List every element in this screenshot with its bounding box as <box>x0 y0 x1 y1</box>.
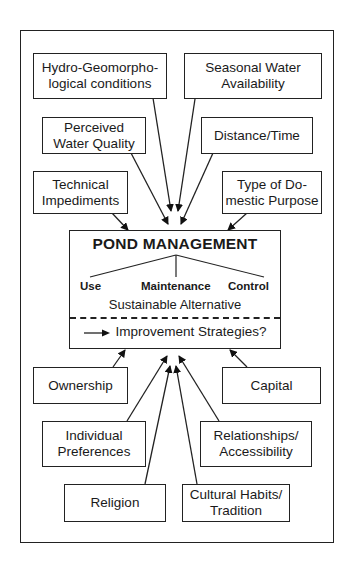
factor-religion: Religion <box>64 484 166 522</box>
arrow-perceived <box>131 153 168 224</box>
branch-lines <box>70 231 282 281</box>
factor-relationships: Relationships/Accessibility <box>200 421 312 467</box>
arrow-seasonal <box>178 99 195 211</box>
factor-capital: Capital <box>222 367 321 404</box>
branch-use: Use <box>80 280 101 292</box>
dashed-divider <box>70 317 280 319</box>
factor-seasonal: Seasonal WaterAvailability <box>184 53 322 99</box>
arrow-religion <box>145 366 170 484</box>
arrow-relationships <box>179 356 219 421</box>
branch-maintenance: Maintenance <box>141 280 211 292</box>
factor-technical: TechnicalImpediments <box>33 171 128 214</box>
improvement-strategies: Improvement Strategies? <box>70 324 280 340</box>
arrow-hydro <box>153 98 171 211</box>
arrow-ownership <box>113 350 125 367</box>
arrow-cultural <box>176 366 197 484</box>
factor-individual: IndividualPreferences <box>42 421 146 467</box>
arrow-domestic <box>228 213 247 230</box>
branch-control: Control <box>228 280 269 292</box>
factor-hydro: Hydro-Geomorpho-logical conditions <box>33 53 167 99</box>
factor-ownership: Ownership <box>33 367 128 404</box>
arrow-capital <box>230 350 247 367</box>
sustainable-alternative: Sustainable Alternative <box>70 297 280 312</box>
arrow-technical <box>112 213 128 230</box>
factor-perceived: PerceivedWater Quality <box>42 117 146 154</box>
factor-domestic: Type of Do-mestic Purpose <box>222 171 322 214</box>
right-arrow-icon <box>84 325 110 340</box>
factor-distance: Distance/Time <box>201 117 313 154</box>
factor-cultural: Cultural Habits/Tradition <box>182 484 290 522</box>
pond-management-box: POND MANAGEMENT Use Maintenance Control … <box>69 230 281 349</box>
